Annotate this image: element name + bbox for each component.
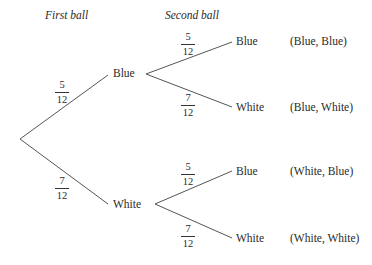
prob-first-white: 7 12 [54,176,70,201]
prob-blue-blue: 5 12 [180,32,196,57]
outcome-white-white: (White, White) [290,233,359,245]
numerator: 5 [180,162,196,174]
numerator: 5 [54,80,70,92]
outcome-white-blue: (White, Blue) [290,166,353,178]
outcome-blue-blue: (Blue, Blue) [290,36,347,48]
prob-first-blue: 5 12 [54,80,70,105]
prob-white-blue: 5 12 [180,162,196,187]
node-blue-blue: Blue [236,36,258,48]
denominator: 12 [180,237,196,250]
node-blue-white: White [236,102,264,114]
node-white-blue: Blue [236,166,258,178]
numerator: 7 [180,224,196,236]
numerator: 7 [54,176,70,188]
numerator: 7 [180,93,196,105]
header-second-ball: Second ball [165,10,219,22]
prob-white-white: 7 12 [180,224,196,249]
header-first-ball: First ball [45,10,88,22]
denominator: 12 [180,175,196,188]
outcome-blue-white: (Blue, White) [290,102,353,114]
node-white-white: White [236,233,264,245]
numerator: 5 [180,32,196,44]
denominator: 12 [180,106,196,119]
node-first-blue: Blue [113,68,135,80]
denominator: 12 [180,45,196,58]
node-first-white: White [113,199,141,211]
denominator: 12 [54,189,70,202]
denominator: 12 [54,93,70,106]
prob-blue-white: 7 12 [180,93,196,118]
